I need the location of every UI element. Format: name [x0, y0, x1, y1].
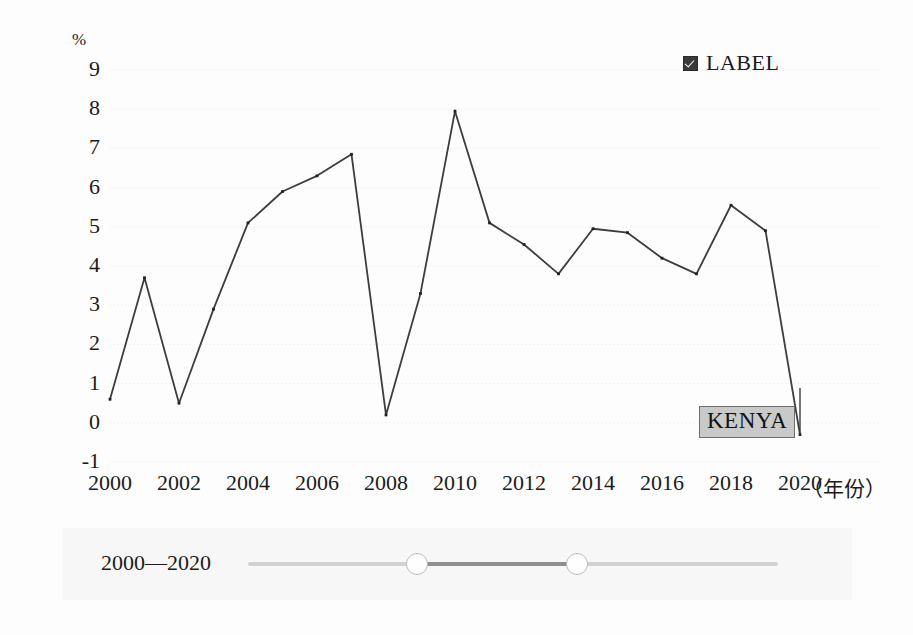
x-axis-tick-label: 2000	[70, 471, 150, 495]
data-point-marker	[281, 190, 284, 193]
y-axis-tick-label: 3	[56, 293, 100, 315]
slider-handle-end[interactable]	[566, 553, 588, 575]
x-axis-tick-label: 2010	[415, 471, 495, 495]
data-point-marker	[109, 398, 112, 401]
data-point-marker	[592, 227, 595, 230]
gridlines-group	[110, 70, 880, 462]
x-axis-tick-label: 2014	[553, 471, 633, 495]
y-axis-unit-label: %	[72, 30, 86, 50]
data-point-marker	[695, 272, 698, 275]
data-point-marker	[143, 276, 146, 279]
x-axis-tick-label: 2002	[139, 471, 219, 495]
data-point-marker	[212, 308, 215, 311]
y-axis-tick-label: 9	[56, 58, 100, 80]
slider-selected-range[interactable]	[414, 562, 576, 566]
y-axis-tick-label: 1	[56, 372, 100, 394]
y-axis-tick-label: 2	[56, 332, 100, 354]
y-axis-tick-label: 0	[56, 411, 100, 433]
x-axis-tick-label: 2008	[346, 471, 426, 495]
slider-range-text: 2000—2020	[101, 550, 211, 576]
data-point-marker	[557, 272, 560, 275]
x-axis-tick-label: 2004	[208, 471, 288, 495]
series-annotation-kenya: KENYA	[699, 406, 795, 438]
data-point-marker	[523, 243, 526, 246]
y-axis-tick-label: 6	[56, 176, 100, 198]
legend-checkbox-icon[interactable]	[683, 56, 698, 71]
x-axis-title: （年份）	[802, 472, 886, 502]
x-axis-tick-label: 2016	[622, 471, 702, 495]
x-axis-tick-label: 2012	[484, 471, 564, 495]
y-axis-tick-label: 7	[56, 136, 100, 158]
data-point-marker	[419, 292, 422, 295]
y-axis-tick-label: 5	[56, 215, 100, 237]
data-point-marker	[247, 221, 250, 224]
x-axis-tick-label: 2018	[691, 471, 771, 495]
y-axis-tick-label: 8	[56, 97, 100, 119]
data-point-marker	[350, 153, 353, 156]
slider-handle-start[interactable]	[406, 553, 428, 575]
data-point-marker	[178, 402, 181, 405]
y-axis-tick-label: 4	[56, 254, 100, 276]
data-point-marker	[385, 414, 388, 417]
year-range-slider-panel[interactable]: 2000—2020	[62, 528, 852, 600]
line-chart-panel: % 9876543210-1 2000200220042006200820102…	[0, 0, 913, 515]
x-axis-tick-label: 2006	[277, 471, 357, 495]
data-point-marker	[626, 231, 629, 234]
data-point-marker	[454, 110, 457, 113]
data-point-marker	[316, 174, 319, 177]
legend-label: LABEL	[706, 50, 779, 76]
data-point-marker	[488, 221, 491, 224]
chart-page: % 9876543210-1 2000200220042006200820102…	[0, 0, 913, 635]
data-point-marker	[730, 204, 733, 207]
data-point-marker	[661, 257, 664, 260]
series-markers-group	[109, 110, 802, 436]
y-axis-tick-label: -1	[56, 450, 100, 472]
legend[interactable]: LABEL	[683, 50, 779, 76]
data-point-marker	[764, 229, 767, 232]
